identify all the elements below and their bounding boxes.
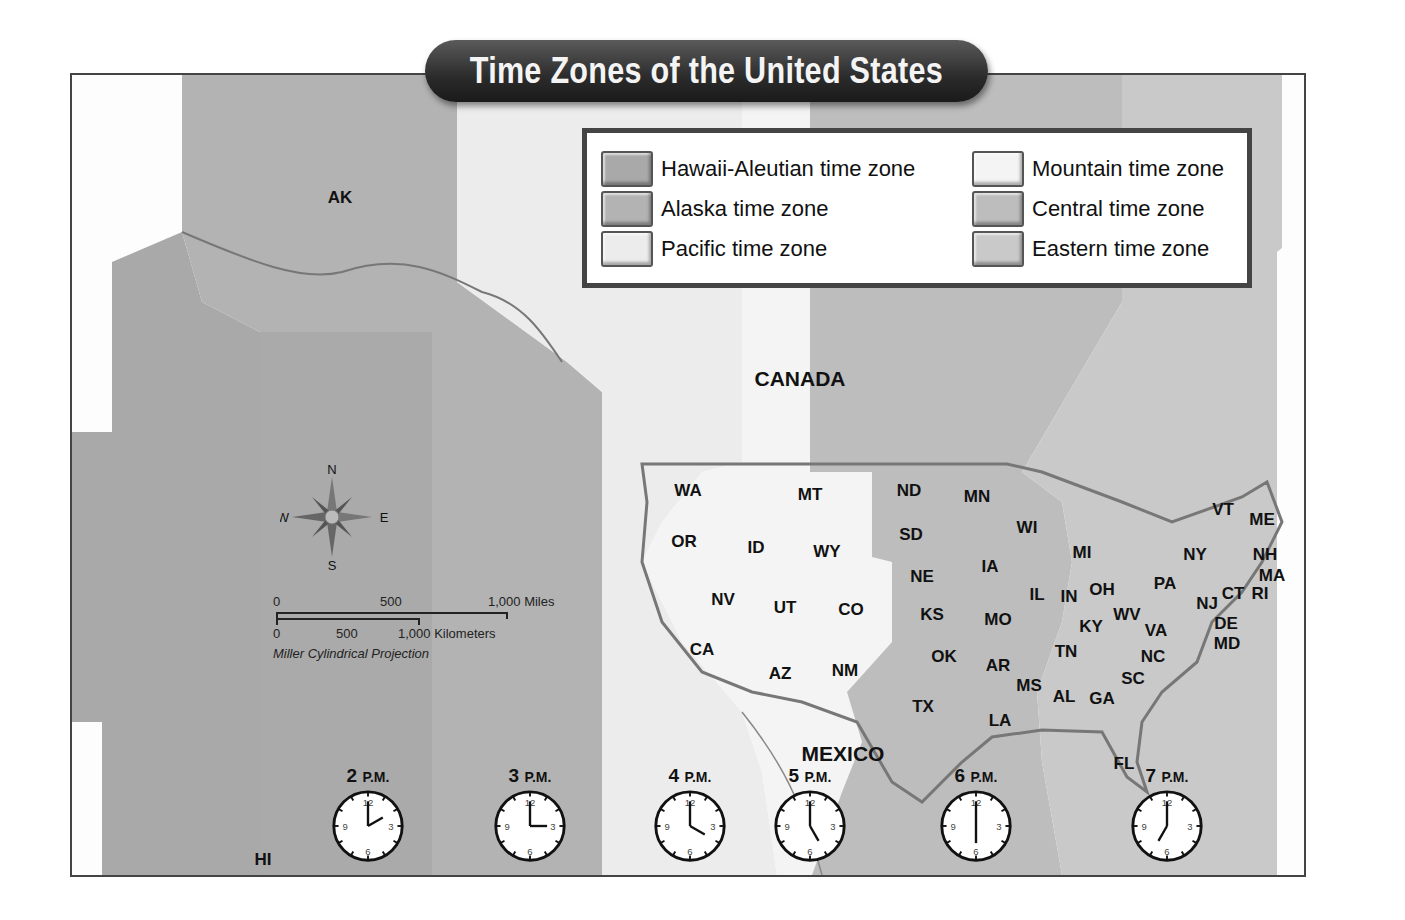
state-label-nj: NJ xyxy=(1196,594,1218,614)
state-label-ca: CA xyxy=(690,640,715,660)
state-label-ne: NE xyxy=(910,567,934,587)
legend-item-central: Central time zone xyxy=(972,191,1204,227)
svg-text:9: 9 xyxy=(665,821,670,832)
region-label-hawaii: HI xyxy=(255,850,272,870)
state-label-fl: FL xyxy=(1114,754,1135,774)
clock-time-label: 3 P.M. xyxy=(509,765,552,787)
state-label-in: IN xyxy=(1061,587,1078,607)
state-label-mo: MO xyxy=(984,610,1011,630)
scale-km-500: 500 xyxy=(336,626,358,641)
legend-label: Pacific time zone xyxy=(661,236,827,262)
state-label-tn: TN xyxy=(1055,642,1078,662)
legend: Hawaii-Aleutian time zone Alaska time zo… xyxy=(582,128,1252,288)
state-label-de: DE xyxy=(1214,614,1238,634)
state-label-mn: MN xyxy=(964,487,990,507)
clock-icon: 12369 xyxy=(492,788,568,864)
state-label-ny: NY xyxy=(1183,545,1207,565)
state-label-nm: NM xyxy=(832,661,858,681)
svg-text:6: 6 xyxy=(527,846,532,857)
svg-text:9: 9 xyxy=(505,821,510,832)
legend-swatch xyxy=(972,151,1024,187)
legend-label: Eastern time zone xyxy=(1032,236,1209,262)
legend-item-mountain: Mountain time zone xyxy=(972,151,1224,187)
state-label-sc: SC xyxy=(1121,669,1145,689)
svg-text:6: 6 xyxy=(687,846,692,857)
legend-swatch xyxy=(601,191,653,227)
scale-projection: Miller Cylindrical Projection xyxy=(273,646,429,661)
state-label-la: LA xyxy=(989,711,1012,731)
state-label-al: AL xyxy=(1053,687,1076,707)
state-label-vt: VT xyxy=(1212,500,1234,520)
state-label-nc: NC xyxy=(1141,647,1166,667)
svg-text:3: 3 xyxy=(830,821,835,832)
state-label-nv: NV xyxy=(711,590,735,610)
state-label-id: ID xyxy=(748,538,765,558)
state-label-md: MD xyxy=(1214,634,1240,654)
legend-swatch xyxy=(601,231,653,267)
compass-w: W xyxy=(280,510,290,525)
legend-label: Central time zone xyxy=(1032,196,1204,222)
state-label-ar: AR xyxy=(986,656,1011,676)
scale-miles-500: 500 xyxy=(380,594,402,609)
state-label-ct: CT xyxy=(1222,584,1245,604)
state-label-ks: KS xyxy=(920,605,944,625)
state-label-co: CO xyxy=(838,600,864,620)
state-label-mi: MI xyxy=(1073,543,1092,563)
state-label-ga: GA xyxy=(1089,689,1115,709)
clock-icon: 12369 xyxy=(772,788,848,864)
svg-text:9: 9 xyxy=(343,821,348,832)
map-title: Time Zones of the United States xyxy=(470,50,943,92)
state-label-mt: MT xyxy=(798,485,823,505)
clock-icon: 12369 xyxy=(938,788,1014,864)
compass-s: S xyxy=(328,558,337,572)
scale-bar: 0 500 1,000 Miles 0 500 1,000 Kilometers… xyxy=(270,592,570,662)
state-label-sd: SD xyxy=(899,525,923,545)
compass-e: E xyxy=(380,510,389,525)
svg-text:3: 3 xyxy=(1187,821,1192,832)
legend-swatch xyxy=(601,151,653,187)
clock-icon: 12369 xyxy=(330,788,406,864)
compass-rose-icon: N S E W xyxy=(280,462,390,572)
state-label-ri: RI xyxy=(1252,584,1269,604)
clock-time-label: 4 P.M. xyxy=(669,765,712,787)
svg-text:3: 3 xyxy=(710,821,715,832)
state-label-wv: WV xyxy=(1113,605,1140,625)
scale-miles-0: 0 xyxy=(273,594,280,609)
legend-item-pacific: Pacific time zone xyxy=(601,231,827,267)
region-label-canada: CANADA xyxy=(755,367,846,391)
clock-icon: 12369 xyxy=(652,788,728,864)
svg-text:3: 3 xyxy=(996,821,1001,832)
svg-text:6: 6 xyxy=(1164,846,1169,857)
map-title-banner: Time Zones of the United States xyxy=(425,40,988,102)
legend-swatch xyxy=(972,191,1024,227)
clock-time-label: 7 P.M. xyxy=(1146,765,1189,787)
scale-miles-1000: 1,000 Miles xyxy=(488,594,554,609)
compass-n: N xyxy=(327,462,336,477)
state-label-va: VA xyxy=(1145,621,1167,641)
legend-swatch xyxy=(972,231,1024,267)
svg-text:9: 9 xyxy=(951,821,956,832)
state-label-ma: MA xyxy=(1259,566,1285,586)
state-label-me: ME xyxy=(1249,510,1275,530)
svg-text:6: 6 xyxy=(973,846,978,857)
state-label-nh: NH xyxy=(1253,545,1278,565)
state-label-il: IL xyxy=(1029,585,1044,605)
scale-km-1000: 1,000 Kilometers xyxy=(398,626,496,641)
legend-item-eastern: Eastern time zone xyxy=(972,231,1209,267)
state-label-wi: WI xyxy=(1017,518,1038,538)
svg-text:9: 9 xyxy=(785,821,790,832)
legend-item-alaska: Alaska time zone xyxy=(601,191,829,227)
svg-text:6: 6 xyxy=(365,846,370,857)
legend-label: Alaska time zone xyxy=(661,196,829,222)
clock-icon: 12369 xyxy=(1129,788,1205,864)
region-label-alaska: AK xyxy=(328,188,353,208)
legend-label: Mountain time zone xyxy=(1032,156,1224,182)
clock-time-label: 5 P.M. xyxy=(789,765,832,787)
state-label-oh: OH xyxy=(1089,580,1115,600)
state-label-tx: TX xyxy=(912,697,934,717)
state-label-ok: OK xyxy=(931,647,957,667)
svg-text:3: 3 xyxy=(550,821,555,832)
clock-time-label: 2 P.M. xyxy=(347,765,390,787)
svg-text:6: 6 xyxy=(807,846,812,857)
state-label-ia: IA xyxy=(982,557,999,577)
